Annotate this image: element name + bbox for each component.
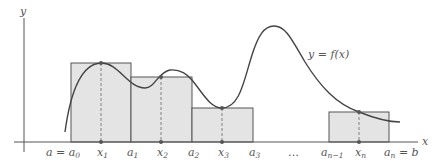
point-x3-axis bbox=[220, 140, 224, 144]
tick-label-an: an = b bbox=[384, 146, 419, 160]
point-xn-axis bbox=[357, 140, 361, 144]
curve-label: y = f(x) bbox=[307, 48, 349, 61]
riemann-sum-diagram: y x y = f(x) a = a0 x1 a1 x2 a2 x3 a3 … … bbox=[0, 0, 441, 164]
point-xn-curve bbox=[357, 110, 361, 114]
tick-label-a2: a2 bbox=[188, 146, 200, 160]
tick-label-dots: … bbox=[288, 146, 299, 159]
rect-3 bbox=[192, 108, 253, 142]
point-x1-curve bbox=[99, 61, 103, 65]
x-axis-label: x bbox=[422, 135, 429, 148]
tick-label-a0: a = a0 bbox=[46, 146, 80, 160]
tick-label-x1: x1 bbox=[97, 146, 108, 160]
tick-labels: a = a0 x1 a1 x2 a2 x3 a3 … an−1 xn an = bbox=[46, 146, 419, 160]
tick-label-a1: a1 bbox=[127, 146, 138, 160]
y-axis-label: y bbox=[19, 5, 27, 18]
tick-label-xn: xn bbox=[355, 146, 366, 160]
tick-label-x2: x2 bbox=[157, 146, 168, 160]
point-x2-curve bbox=[159, 75, 163, 79]
tick-label-an-1: an−1 bbox=[321, 146, 343, 160]
point-x2-axis bbox=[159, 140, 163, 144]
tick-label-x3: x3 bbox=[218, 146, 229, 160]
point-x3-curve bbox=[220, 106, 224, 110]
point-x1-axis bbox=[99, 140, 103, 144]
tick-label-a3: a3 bbox=[249, 146, 261, 160]
